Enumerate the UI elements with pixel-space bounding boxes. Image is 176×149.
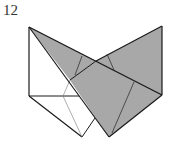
origami-diagram xyxy=(0,0,176,149)
